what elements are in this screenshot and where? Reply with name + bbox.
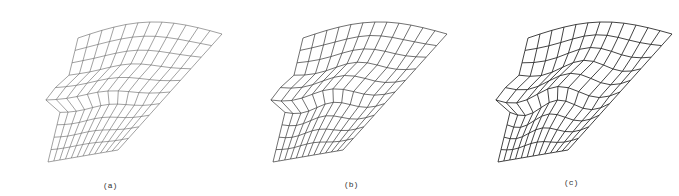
panel-a [0, 0, 226, 196]
caption-c: (c) [564, 178, 578, 187]
caption-b: (b) [344, 180, 358, 189]
panel-c [450, 0, 679, 196]
panel-b [225, 0, 451, 196]
wireframe-surface-c [450, 0, 679, 196]
wireframe-surface-b [225, 0, 451, 196]
wireframe-surface-a [0, 0, 226, 196]
caption-a: (a) [103, 181, 117, 190]
